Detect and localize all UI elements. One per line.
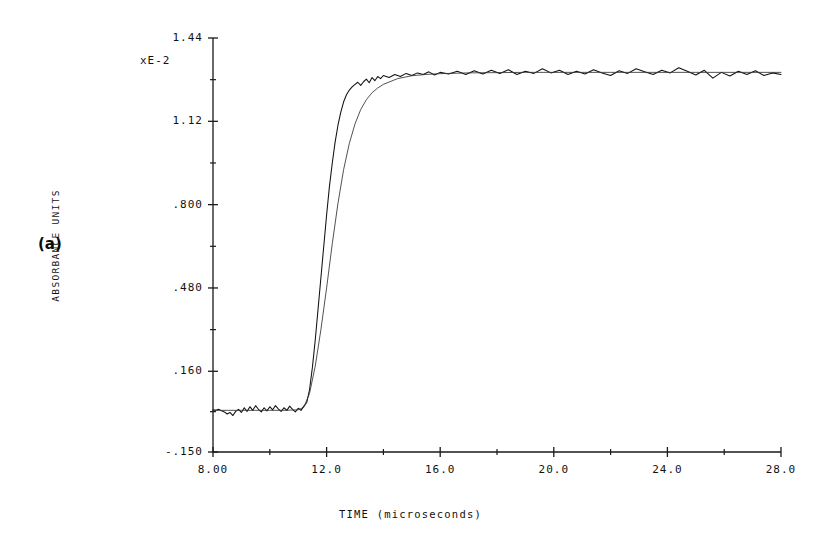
data-traces (213, 68, 781, 416)
y-tick-label: 1.44 (173, 31, 204, 44)
figure-panel: (a) xE-2 ABSORBANCE UNITS TIME (microsec… (0, 0, 821, 550)
x-tick-label: 16.0 (410, 463, 470, 476)
fitted-curve (213, 72, 781, 410)
y-tick-label: .800 (173, 198, 204, 211)
y-tick-label: .480 (173, 281, 204, 294)
x-tick-label: 24.0 (637, 463, 697, 476)
axes (208, 38, 781, 457)
experimental-trace (213, 68, 781, 416)
x-tick-label: 12.0 (297, 463, 357, 476)
y-tick-label: -.150 (165, 445, 203, 458)
x-tick-label: 28.0 (751, 463, 811, 476)
y-tick-label: 1.12 (173, 114, 204, 127)
x-tick-label: 20.0 (524, 463, 584, 476)
x-tick-label: 8.00 (183, 463, 243, 476)
y-tick-label: .160 (173, 364, 204, 377)
